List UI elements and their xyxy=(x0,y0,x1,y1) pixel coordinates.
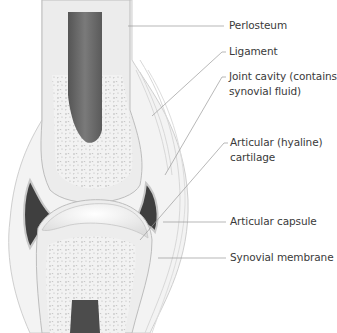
label-ligament: Ligament xyxy=(229,45,278,58)
label-articular-capsule: Articular capsule xyxy=(230,215,317,228)
label-articular-cartilage-line2: cartilage xyxy=(230,151,275,164)
label-periosteum: Perlosteum xyxy=(229,19,287,32)
label-articular-cartilage-line1: Articular (hyaline) xyxy=(230,136,323,149)
upper-bone xyxy=(41,0,142,203)
label-joint-cavity-line1: Joint cavity (contains xyxy=(229,70,337,83)
label-synovial-membrane: Synovial membrane xyxy=(230,251,334,264)
lower-bone xyxy=(36,200,152,333)
label-joint-cavity-line2: synovial fluid) xyxy=(229,85,301,98)
marrow-cavity-lower xyxy=(70,300,100,333)
